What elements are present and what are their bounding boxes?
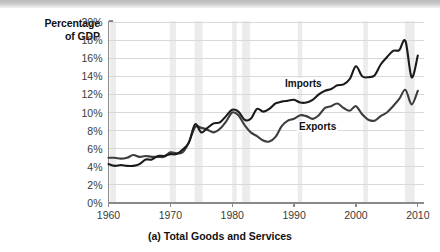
x-tick-label: 1980 bbox=[221, 209, 244, 221]
x-tick-label: 1970 bbox=[159, 209, 182, 221]
x-tick-label: 2000 bbox=[344, 209, 367, 221]
series-label-imports: Imports bbox=[283, 78, 324, 89]
y-tick-label: 14% bbox=[69, 70, 103, 82]
x-tick-label: 1960 bbox=[97, 209, 120, 221]
chart-figure: Percentage of GDP 0%2%4%6%8%10%12%14%16%… bbox=[0, 0, 440, 252]
y-tick-label: 16% bbox=[69, 52, 103, 64]
y-tick-label: 8% bbox=[69, 125, 103, 137]
y-tick-label: 6% bbox=[69, 143, 103, 155]
x-tick-label: 2010 bbox=[406, 209, 429, 221]
y-tick-label: 20% bbox=[69, 16, 103, 28]
y-tick-label: 0% bbox=[69, 197, 103, 209]
x-tick-label: 1990 bbox=[282, 209, 305, 221]
series-label-exports: Exports bbox=[297, 121, 338, 132]
figure-caption: (a) Total Goods and Services bbox=[0, 230, 440, 242]
y-tick-label: 2% bbox=[69, 179, 103, 191]
y-tick-label: 10% bbox=[69, 107, 103, 119]
y-tick-label: 4% bbox=[69, 161, 103, 173]
y-tick-label: 12% bbox=[69, 88, 103, 100]
y-tick-label: 18% bbox=[69, 34, 103, 46]
